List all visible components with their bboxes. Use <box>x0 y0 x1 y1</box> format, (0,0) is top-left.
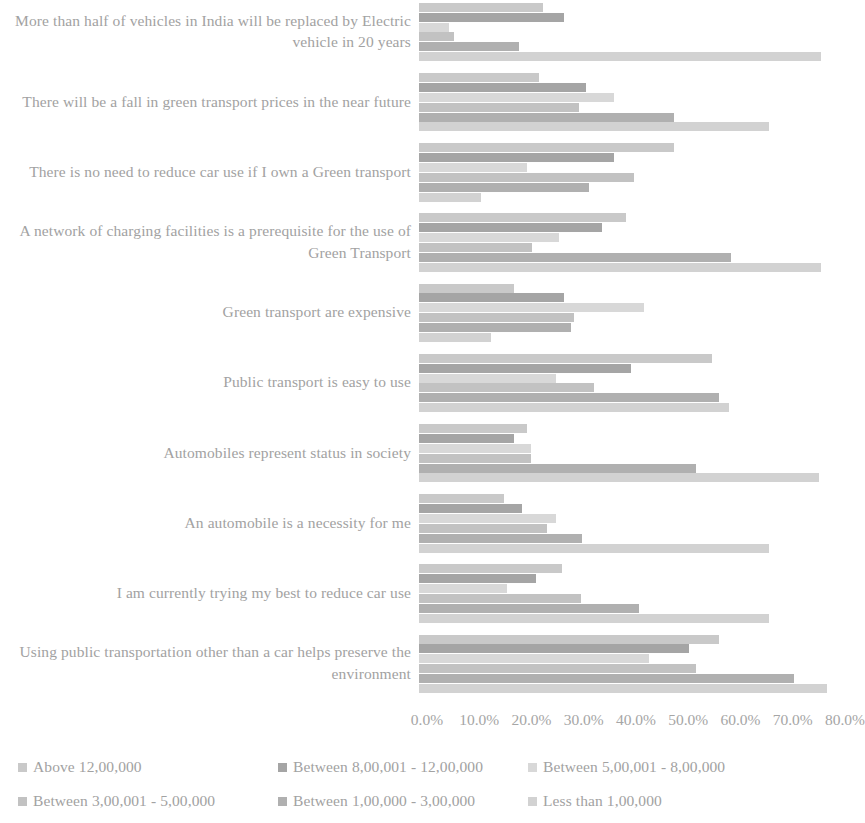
x-axis-tick: 10.0% <box>459 711 499 729</box>
bar <box>419 444 531 453</box>
bar <box>419 494 504 503</box>
legend-swatch-icon <box>278 797 287 806</box>
bar-stack <box>419 635 856 691</box>
bar <box>419 473 819 482</box>
bar-stack <box>419 354 856 410</box>
category-label: There is no need to reduce car use if I … <box>0 161 419 182</box>
bar <box>419 614 769 623</box>
bar-stack <box>419 3 856 59</box>
legend-item[interactable]: Between 3,00,001 - 5,00,000 <box>18 792 215 810</box>
bar <box>419 664 696 673</box>
category-group: More than half of vehicles in India will… <box>0 2 856 60</box>
category-group: Public transport is easy to use <box>0 353 856 411</box>
bar <box>419 103 579 112</box>
legend-label: Between 1,00,000 - 3,00,000 <box>293 792 475 810</box>
bar <box>419 684 827 693</box>
bar-stack <box>419 424 856 480</box>
bar <box>419 73 539 82</box>
bar <box>419 83 586 92</box>
bar <box>419 454 531 463</box>
x-axis-tick: 20.0% <box>511 711 551 729</box>
bar <box>419 32 454 41</box>
bar <box>419 374 556 383</box>
category-group: A network of charging facilities is a pr… <box>0 213 856 271</box>
bar <box>419 403 729 412</box>
bar <box>419 93 614 102</box>
category-label: Automobiles represent status in society <box>0 442 419 463</box>
bar <box>419 23 449 32</box>
x-axis-tick: 60.0% <box>720 711 760 729</box>
bar <box>419 52 821 61</box>
bar-stack <box>419 284 856 340</box>
legend-item[interactable]: Above 12,00,000 <box>18 758 142 776</box>
bar <box>419 253 731 262</box>
legend-label: Above 12,00,000 <box>33 758 142 776</box>
x-axis-tick: 0.0% <box>411 711 443 729</box>
bar <box>419 644 689 653</box>
bar <box>419 213 626 222</box>
category-label: There will be a fall in green transport … <box>0 91 419 112</box>
legend-item[interactable]: Less than 1,00,000 <box>528 792 662 810</box>
x-axis-tick: 70.0% <box>773 711 813 729</box>
bar <box>419 223 602 232</box>
category-group: There will be a fall in green transport … <box>0 72 856 130</box>
chart-legend: Above 12,00,000Between 8,00,001 - 12,00,… <box>0 752 856 818</box>
bar <box>419 122 769 131</box>
legend-item[interactable]: Between 1,00,000 - 3,00,000 <box>278 792 475 810</box>
category-group: There is no need to reduce car use if I … <box>0 142 856 200</box>
legend-swatch-icon <box>278 763 287 772</box>
bar <box>419 383 594 392</box>
bar <box>419 584 507 593</box>
bar <box>419 524 547 533</box>
bar-stack <box>419 565 856 621</box>
bar <box>419 574 536 583</box>
x-axis-tick: 40.0% <box>616 711 656 729</box>
x-axis: 0.0%10.0%20.0%30.0%40.0%50.0%60.0%70.0%8… <box>427 711 856 733</box>
category-group: Green transport are expensive <box>0 283 856 341</box>
legend-swatch-icon <box>528 763 537 772</box>
bar-stack <box>419 143 856 199</box>
bar <box>419 594 581 603</box>
bar <box>419 635 719 644</box>
bar-stack <box>419 73 856 129</box>
legend-label: Between 8,00,001 - 12,00,000 <box>293 758 483 776</box>
legend-label: Between 3,00,001 - 5,00,000 <box>33 792 215 810</box>
bar <box>419 434 514 443</box>
bar <box>419 514 556 523</box>
bar <box>419 564 562 573</box>
bar <box>419 3 543 12</box>
bar <box>419 143 674 152</box>
bar <box>419 313 574 322</box>
category-group: Automobiles represent status in society <box>0 423 856 481</box>
x-axis-tick: 30.0% <box>564 711 604 729</box>
bar <box>419 193 481 202</box>
bar <box>419 354 712 363</box>
legend-label: Between 5,00,001 - 8,00,000 <box>543 758 725 776</box>
x-axis-tick: 80.0% <box>825 711 865 729</box>
plot-area: More than half of vehicles in India will… <box>0 0 856 706</box>
bar <box>419 674 794 683</box>
bar <box>419 303 644 312</box>
legend-swatch-icon <box>18 763 27 772</box>
category-group: Using public transportation other than a… <box>0 634 856 692</box>
bar <box>419 183 589 192</box>
legend-label: Less than 1,00,000 <box>543 792 662 810</box>
bar <box>419 173 634 182</box>
bar <box>419 364 631 373</box>
category-label: An automobile is a necessity for me <box>0 512 419 533</box>
x-axis-tick: 50.0% <box>668 711 708 729</box>
category-label: More than half of vehicles in India will… <box>0 10 419 53</box>
bar <box>419 113 674 122</box>
bar <box>419 42 519 51</box>
legend-item[interactable]: Between 5,00,001 - 8,00,000 <box>528 758 725 776</box>
bar <box>419 504 522 513</box>
bar-stack <box>419 214 856 270</box>
legend-item[interactable]: Between 8,00,001 - 12,00,000 <box>278 758 483 776</box>
bar <box>419 333 491 342</box>
bar <box>419 243 532 252</box>
bar <box>419 323 571 332</box>
bar <box>419 544 769 553</box>
bar <box>419 424 527 433</box>
legend-swatch-icon <box>18 797 27 806</box>
